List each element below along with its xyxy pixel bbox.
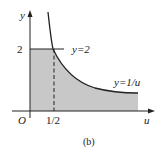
line-label-y2: y=2 [72, 44, 90, 55]
origin-label: O [18, 115, 26, 126]
curve-label: y=1/u [114, 77, 140, 88]
x-tick-label: 1/2 [46, 115, 60, 126]
figure-caption: (b) [83, 137, 95, 147]
x-axis-label: u [144, 115, 150, 126]
x-axis-arrow-icon [148, 109, 155, 114]
y-tick-label: 2 [17, 44, 23, 55]
y-axis-arrow-icon [28, 10, 33, 17]
y-axis-label: y [20, 10, 25, 21]
